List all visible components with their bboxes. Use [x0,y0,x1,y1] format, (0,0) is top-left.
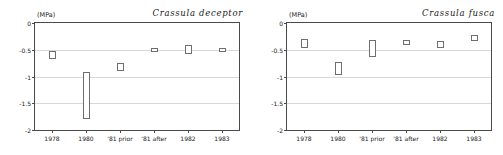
x-axis-tick [338,130,339,133]
y-axis-tick [284,103,287,104]
x-axis-tick [372,130,373,133]
y-gridline [35,77,239,78]
y-axis-tick [284,77,287,78]
y-gridline [35,103,239,104]
y-axis-tick [32,77,35,78]
x-axis-tick-label: 1980 [78,135,93,142]
x-axis-tick [120,130,121,133]
chart-panel-crassula-deceptor: Crassula deceptor (MPa) 0-0.5-1-1.5-2197… [0,0,251,155]
x-axis-tick-label: 1978 [44,135,59,142]
range-box [83,72,90,119]
chart-title: Crassula fusca [422,8,495,18]
x-axis-tick [154,130,155,133]
range-box [403,40,410,46]
x-axis-tick-label: '81 prior [359,135,384,142]
y-gridline [287,77,491,78]
x-axis-tick [304,130,305,133]
y-axis-tick-label: -1.5 [19,100,31,107]
y-axis-tick [32,50,35,51]
range-box [185,45,192,54]
x-axis-tick-label: 1983 [214,135,229,142]
chart-title: Crassula deceptor [152,8,243,18]
x-axis-tick [440,130,441,133]
y-axis-tick [32,103,35,104]
plot-area: 0-0.5-1-1.5-219781980'81 prior'81 after1… [34,22,240,131]
chart-panel-crassula-fusca: Crassula fusca (MPa) 0-0.5-1-1.5-2197819… [252,0,503,155]
plot-area: 0-0.5-1-1.5-219781980'81 prior'81 after1… [286,22,492,131]
range-box [219,48,226,52]
y-axis-tick [284,130,287,131]
x-axis-tick [406,130,407,133]
y-axis-tick [32,23,35,24]
x-axis-tick [222,130,223,133]
range-box [301,39,308,48]
y-axis-tick-label: -1.5 [271,100,283,107]
y-axis-tick-label: -0.5 [19,46,31,53]
figure-container: Crassula deceptor (MPa) 0-0.5-1-1.5-2197… [0,0,503,155]
range-box [151,48,158,53]
y-axis-tick-label: 0 [27,20,31,27]
x-axis-tick [52,130,53,133]
x-axis-tick [474,130,475,133]
y-axis-tick-label: -1 [25,73,31,80]
x-axis-tick [188,130,189,133]
y-axis-tick-label: -2 [277,127,283,134]
y-axis-tick-label: -2 [25,127,31,134]
y-axis-tick [284,23,287,24]
y-axis-tick-label: -1 [277,73,283,80]
range-box [369,40,376,57]
range-box [117,63,124,71]
x-axis-tick-label: '81 prior [107,135,132,142]
range-box [49,51,56,59]
x-axis-tick [86,130,87,133]
range-box [471,35,478,41]
range-box [437,41,444,48]
y-axis-tick [32,130,35,131]
y-gridline [35,50,239,51]
y-gridline [287,50,491,51]
y-axis-tick [284,50,287,51]
x-axis-tick-label: '81 after [141,135,166,142]
range-box [335,62,342,76]
x-axis-tick-label: 1983 [466,135,481,142]
x-axis-tick-label: 1982 [180,135,195,142]
y-axis-tick-label: 0 [279,20,283,27]
x-axis-tick-label: 1982 [432,135,447,142]
y-axis-unit-label: (MPa) [37,11,55,19]
x-axis-tick-label: '81 after [393,135,418,142]
y-axis-tick-label: -0.5 [271,46,283,53]
x-axis-tick-label: 1978 [296,135,311,142]
y-gridline [287,103,491,104]
x-axis-tick-label: 1980 [330,135,345,142]
y-axis-unit-label: (MPa) [289,11,307,19]
